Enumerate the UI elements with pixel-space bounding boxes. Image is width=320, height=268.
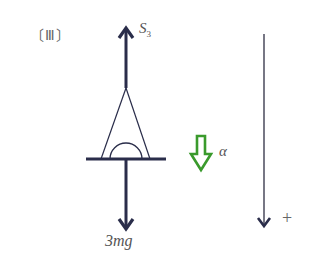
- tension-label: S3: [139, 20, 151, 39]
- tension-arrow: [119, 28, 133, 88]
- acceleration-arrow-icon: [191, 136, 211, 170]
- positive-direction-arrow: [258, 34, 270, 226]
- weight-arrow: [119, 160, 133, 229]
- hook-arc: [110, 143, 142, 159]
- panel-label: 〔Ⅲ〕: [30, 24, 71, 44]
- cable-triangle: [101, 88, 150, 159]
- acceleration-label: α: [219, 143, 227, 160]
- positive-direction-label: +: [282, 208, 292, 229]
- weight-label: 3mg: [105, 232, 133, 250]
